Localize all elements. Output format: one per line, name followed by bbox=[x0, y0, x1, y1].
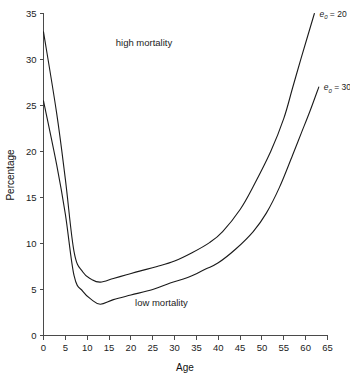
series-label-0: e0 = 20 bbox=[319, 9, 346, 20]
x-tick-label: 65 bbox=[322, 342, 333, 353]
line-chart: 05101520253035 0510152025303540455055606… bbox=[0, 0, 350, 378]
y-tick-label: 15 bbox=[26, 192, 37, 203]
y-tick-label: 0 bbox=[31, 330, 36, 341]
y-tick-label: 25 bbox=[26, 100, 37, 111]
series-label-1: e0 = 30 bbox=[324, 82, 350, 93]
y-axis: 05101520253035 bbox=[26, 8, 44, 341]
data-curves bbox=[44, 14, 319, 305]
x-tick-label: 45 bbox=[235, 342, 246, 353]
curve-series-1 bbox=[44, 87, 319, 304]
series-end-labels: e0 = 20e0 = 30 bbox=[319, 9, 350, 94]
y-tick-label: 35 bbox=[26, 8, 37, 19]
x-tick-label: 50 bbox=[257, 342, 268, 353]
x-axis-title: Age bbox=[176, 362, 194, 373]
x-tick-label: 35 bbox=[191, 342, 202, 353]
x-tick-label: 40 bbox=[213, 342, 224, 353]
y-tick-label: 30 bbox=[26, 54, 37, 65]
x-tick-label: 5 bbox=[63, 342, 68, 353]
x-tick-label: 55 bbox=[279, 342, 290, 353]
x-tick-label: 0 bbox=[41, 342, 46, 353]
annotation-0: high mortality bbox=[116, 37, 173, 48]
x-tick-label: 15 bbox=[104, 342, 115, 353]
chart-container: 05101520253035 0510152025303540455055606… bbox=[0, 0, 350, 378]
y-axis-title: Percentage bbox=[5, 149, 16, 201]
x-tick-label: 30 bbox=[169, 342, 180, 353]
y-tick-label: 10 bbox=[26, 238, 37, 249]
x-tick-label: 25 bbox=[147, 342, 158, 353]
x-tick-label: 10 bbox=[82, 342, 93, 353]
y-tick-label: 20 bbox=[26, 146, 37, 157]
x-tick-label: 20 bbox=[126, 342, 137, 353]
x-tick-label: 60 bbox=[300, 342, 311, 353]
curve-series-0 bbox=[44, 14, 315, 283]
annotation-1: low mortality bbox=[135, 297, 188, 308]
x-axis: 05101520253035404550556065 bbox=[41, 336, 333, 353]
y-tick-label: 5 bbox=[31, 284, 36, 295]
